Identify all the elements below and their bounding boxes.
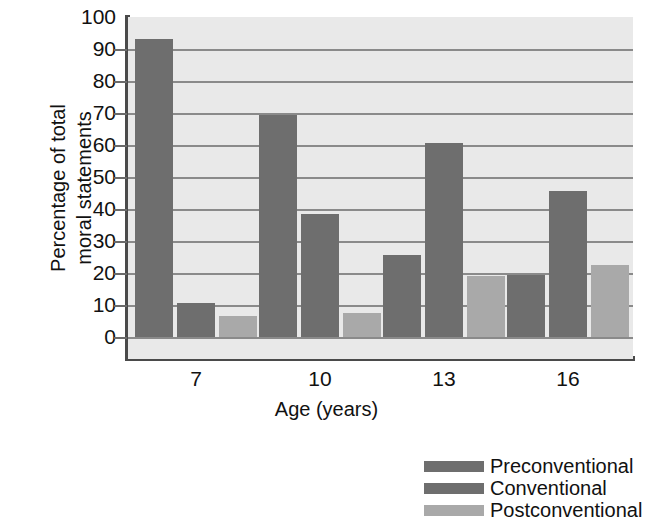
y-tick-mark-60 — [114, 145, 127, 147]
bar-preconventional-age-7 — [135, 39, 173, 337]
y-tick-mark-70 — [114, 113, 127, 115]
y-tick-label-40: 40 — [70, 198, 116, 219]
x-tick-label-7: 7 — [166, 368, 226, 390]
gridline-70 — [128, 113, 633, 115]
legend-label-postconventional: Postconventional — [490, 499, 642, 520]
y-tick-mark-40 — [114, 209, 127, 211]
gridline-80 — [128, 81, 633, 83]
bar-preconventional-age-16 — [507, 275, 545, 337]
y-tick-mark-80 — [114, 81, 127, 83]
bar-preconventional-age-10 — [259, 115, 297, 337]
y-tick-label-70: 70 — [70, 102, 116, 123]
bar-postconventional-age-10 — [343, 313, 381, 337]
x-tick-label-13: 13 — [414, 368, 474, 390]
y-tick-label-30: 30 — [70, 230, 116, 251]
y-tick-mark-50 — [114, 177, 127, 179]
y-tick-label-50: 50 — [70, 166, 116, 187]
y-tick-label-10: 10 — [70, 294, 116, 315]
gridline-60 — [128, 145, 633, 147]
bar-conventional-age-10 — [301, 214, 339, 337]
legend-swatch-conventional — [424, 483, 484, 494]
legend-label-conventional: Conventional — [490, 477, 607, 499]
bar-conventional-age-16 — [549, 191, 587, 337]
bar-postconventional-age-7 — [219, 316, 257, 337]
y-tick-label-90: 90 — [70, 38, 116, 59]
y-tick-label-20: 20 — [70, 262, 116, 283]
y-axis-tick-labels: 1009080706050403020100 — [66, 0, 116, 360]
legend-swatch-preconventional — [424, 461, 484, 472]
y-tick-label-80: 80 — [70, 70, 116, 91]
legend-item-conventional: Conventional — [424, 477, 653, 499]
legend-item-postconventional: Postconventional — [424, 499, 653, 520]
x-tick-label-10: 10 — [290, 368, 350, 390]
chart-legend: PreconventionalConventionalPostconventio… — [424, 455, 653, 520]
bar-chart-figure: Percentage of total moral statements 100… — [0, 0, 653, 520]
y-tick-mark-10 — [114, 305, 127, 307]
y-tick-label-0: 0 — [70, 326, 116, 347]
y-tick-mark-20 — [114, 273, 127, 275]
plot-area — [128, 17, 633, 359]
y-tick-mark-0 — [114, 337, 127, 339]
gridline-50 — [128, 177, 633, 179]
gridline-0 — [128, 337, 633, 339]
bar-preconventional-age-13 — [383, 255, 421, 337]
legend-swatch-postconventional — [424, 505, 484, 516]
y-tick-label-60: 60 — [70, 134, 116, 155]
y-tick-mark-90 — [114, 49, 127, 51]
bar-conventional-age-7 — [177, 303, 215, 337]
bar-conventional-age-13 — [425, 143, 463, 337]
x-tick-label-16: 16 — [538, 368, 598, 390]
legend-item-preconventional: Preconventional — [424, 455, 653, 477]
bar-postconventional-age-13 — [467, 276, 505, 337]
y-tick-mark-30 — [114, 241, 127, 243]
plot-inner — [128, 17, 633, 359]
legend-label-preconventional: Preconventional — [490, 455, 633, 477]
gridline-90 — [128, 49, 633, 51]
y-tick-label-100: 100 — [70, 6, 116, 27]
x-axis-title: Age (years) — [0, 398, 653, 421]
bar-postconventional-age-16 — [591, 265, 629, 337]
